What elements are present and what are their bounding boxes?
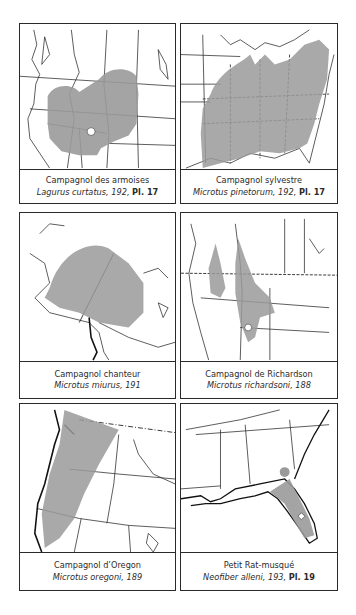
caption: Campagnol chanteur Microtus miurus, 191	[20, 361, 175, 398]
caption: Petit Rat-musqué Neofiber alleni, 193, P…	[181, 552, 337, 590]
map-eastern-us-icon	[181, 24, 337, 171]
page-ref: , 192,	[106, 187, 132, 197]
scientific-name: Microtus miurus	[54, 380, 120, 390]
plate-ref: Pl. 19	[289, 572, 315, 582]
range-map	[20, 404, 175, 553]
range-map	[20, 213, 175, 363]
range-map-panel-microtus-miurus: Campagnol chanteur Microtus miurus, 191	[19, 212, 176, 399]
range-map-panel-microtus-oregoni: Campagnol d’Oregon Microtus oregoni, 189	[19, 403, 176, 591]
page-ref: , 193,	[263, 572, 289, 582]
common-name: Campagnol sylvestre	[216, 175, 302, 187]
common-name: Campagnol de Richardson	[205, 369, 313, 381]
page-ref: , 188	[290, 380, 311, 390]
page-ref: , 192,	[273, 187, 299, 197]
scientific-name: Microtus oregoni	[53, 572, 122, 582]
range-map	[181, 213, 337, 363]
common-name: Campagnol d’Oregon	[54, 560, 141, 572]
range-map-panel-lagurus-curtatus: Campagnol des armoises Lagurus curtatus,…	[19, 23, 176, 204]
range-map-panel-microtus-richardsoni: Campagnol de Richardson Microtus richard…	[180, 212, 338, 399]
caption: Campagnol des armoises Lagurus curtatus,…	[20, 169, 175, 203]
range-map	[181, 404, 337, 553]
map-pacific-northwest-icon	[20, 404, 175, 553]
page-ref: , 191	[120, 380, 141, 390]
plate-ref: Pl. 17	[299, 187, 325, 197]
range-map-panel-neofiber-alleni: Petit Rat-musqué Neofiber alleni, 193, P…	[180, 403, 338, 591]
map-southeast-us-icon	[181, 404, 337, 553]
common-name: Petit Rat-musqué	[224, 560, 295, 572]
common-name: Campagnol chanteur	[55, 369, 141, 381]
caption: Campagnol sylvestre Microtus pinetorum, …	[181, 169, 337, 203]
plate-ref: Pl. 17	[132, 187, 158, 197]
scientific-name: Microtus pinetorum	[193, 187, 273, 197]
caption: Campagnol de Richardson Microtus richard…	[181, 361, 337, 398]
map-alaska-yukon-icon	[20, 213, 175, 363]
map-northwest-us-icon	[181, 213, 337, 363]
page-ref: , 189	[121, 572, 142, 582]
scientific-name: Neofiber alleni	[203, 572, 263, 582]
range-map-panel-microtus-pinetorum: Campagnol sylvestre Microtus pinetorum, …	[180, 23, 338, 204]
scientific-name: Microtus richardsoni	[207, 380, 290, 390]
range-map	[181, 24, 337, 171]
common-name: Campagnol des armoises	[46, 175, 149, 187]
caption: Campagnol d’Oregon Microtus oregoni, 189	[20, 552, 175, 590]
map-western-us-icon	[20, 24, 175, 171]
scientific-name: Lagurus curtatus	[37, 187, 106, 197]
range-map	[20, 24, 175, 171]
